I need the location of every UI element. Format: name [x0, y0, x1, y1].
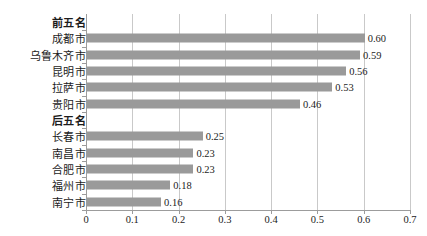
bar[interactable]: [87, 50, 360, 59]
bar-row: 成都市0.60: [0, 30, 427, 46]
bar-value-label: 0.18: [169, 180, 191, 191]
bar[interactable]: [87, 132, 203, 141]
x-tick-label: 0: [83, 214, 88, 225]
x-tick-label: 0.4: [265, 214, 278, 225]
x-tick-label: 0.6: [357, 214, 370, 225]
bar-row: 乌鲁木齐市0.59: [0, 47, 427, 63]
bar[interactable]: [87, 83, 332, 92]
category-label: 长春市: [52, 128, 86, 144]
bar-value-label: 0.16: [160, 196, 182, 207]
category-label: 成都市: [52, 30, 86, 46]
x-tick-label: 0.1: [126, 214, 139, 225]
x-tick-label: 0.2: [172, 214, 185, 225]
bar-row: 贵阳市0.46: [0, 96, 427, 112]
x-axis-line: [86, 210, 411, 211]
x-tick-label: 0.5: [311, 214, 324, 225]
bar-value-label: 0.59: [359, 49, 381, 60]
category-label: 昆明市: [52, 63, 86, 79]
bar-row: 南昌市0.23: [0, 145, 427, 161]
category-label: 福州市: [52, 177, 86, 193]
category-label: 合肥市: [52, 161, 86, 177]
bar[interactable]: [87, 34, 365, 43]
bar-row: 长春市0.25: [0, 128, 427, 144]
category-label: 拉萨市: [52, 79, 86, 95]
bar-value-label: 0.23: [192, 147, 214, 158]
bar[interactable]: [87, 67, 346, 76]
category-label: 南宁市: [52, 194, 86, 210]
bar-row: 昆明市0.56: [0, 63, 427, 79]
bar-value-label: 0.25: [202, 131, 224, 142]
bar[interactable]: [87, 197, 161, 206]
category-label: 乌鲁木齐市: [30, 47, 87, 63]
category-label: 贵阳市: [52, 96, 86, 112]
bar-row: 合肥市0.23: [0, 161, 427, 177]
category-label: 南昌市: [52, 145, 86, 161]
bar-value-label: 0.23: [192, 164, 214, 175]
bar-value-label: 0.53: [331, 82, 353, 93]
category-label: 前五名: [52, 14, 86, 30]
group-header-row: 后五名: [0, 112, 427, 128]
bar-chart: 前五名成都市0.60乌鲁木齐市0.59昆明市0.56拉萨市0.53贵阳市0.46…: [0, 0, 427, 236]
bar-row: 拉萨市0.53: [0, 79, 427, 95]
bar-value-label: 0.56: [345, 66, 367, 77]
bar-row: 福州市0.18: [0, 177, 427, 193]
bar-value-label: 0.46: [299, 98, 321, 109]
category-label: 后五名: [52, 112, 86, 128]
bar-row: 南宁市0.16: [0, 194, 427, 210]
bar[interactable]: [87, 181, 170, 190]
x-tick-label: 0.7: [403, 214, 416, 225]
bar-value-label: 0.60: [364, 33, 386, 44]
group-header-row: 前五名: [0, 14, 427, 30]
x-tick-label: 0.3: [218, 214, 231, 225]
bar[interactable]: [87, 99, 300, 108]
bar[interactable]: [87, 165, 193, 174]
bar[interactable]: [87, 148, 193, 157]
